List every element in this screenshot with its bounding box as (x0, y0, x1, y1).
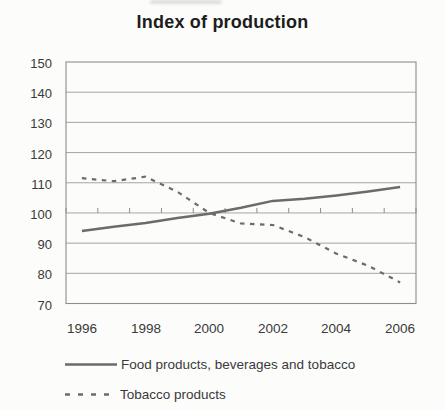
y-axis-label: 130 (12, 117, 52, 131)
x-axis-label: 2000 (186, 322, 232, 336)
solid-line-swatch-icon (64, 356, 118, 373)
y-axis-label: 110 (12, 178, 52, 192)
y-axis-label: 90 (12, 238, 52, 252)
dashed-line-swatch-icon (64, 386, 114, 403)
x-axis-label: 2002 (250, 322, 296, 336)
y-axis-label: 70 (12, 299, 52, 313)
x-axis-label: 2004 (313, 322, 359, 336)
plot-area (0, 0, 445, 345)
x-axis-label: 1998 (123, 322, 169, 336)
y-axis-label: 100 (12, 208, 52, 222)
legend-item-food-products: Food products, beverages and tobacco (64, 356, 355, 373)
y-axis-label: 80 (12, 268, 52, 282)
y-axis-label: 140 (12, 87, 52, 101)
x-axis-label: 2006 (377, 322, 423, 336)
legend-label-tobacco-products: Tobacco products (120, 387, 226, 402)
y-axis-label: 150 (12, 57, 52, 71)
chart: Index of production 15014013012011010090… (0, 0, 445, 410)
x-axis-label: 1996 (59, 322, 105, 336)
legend-label-food-products: Food products, beverages and tobacco (121, 357, 355, 372)
y-axis-label: 120 (12, 148, 52, 162)
legend-item-tobacco-products: Tobacco products (64, 386, 226, 403)
